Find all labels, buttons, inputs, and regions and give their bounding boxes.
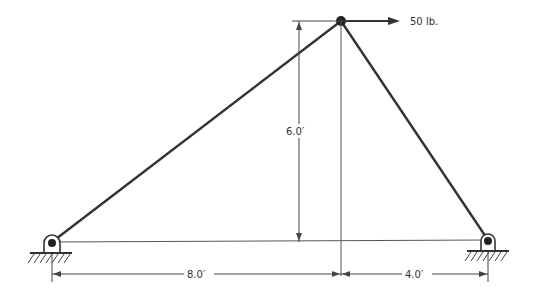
right-member [341,21,488,240]
height-label: 6.0′ [286,126,305,137]
right-span-label: 4.0′ [405,269,424,280]
bottom-baseline [52,240,488,242]
truss-diagram: 50 lb. 6.0′ 8.0′ 4.0′ [0,0,536,294]
span-arrow-mid-right-icon [342,271,350,277]
height-arrow-bottom-icon [296,233,302,241]
left-pin-support [28,235,72,263]
height-arrow-top-icon [296,22,302,30]
right-pin-support [465,234,509,261]
span-arrow-right-icon [479,271,487,277]
load-label: 50 lb. [410,16,438,27]
left-span-label: 8.0′ [187,269,206,280]
span-arrow-left-icon [53,271,61,277]
span-arrow-mid-left-icon [332,271,340,277]
load-arrowhead-icon [388,17,400,25]
